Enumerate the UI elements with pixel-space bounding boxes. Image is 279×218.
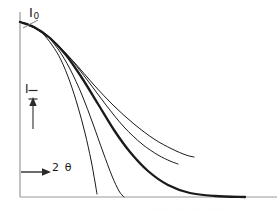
plot-canvas bbox=[0, 0, 279, 218]
i-zero-label: I0 bbox=[29, 5, 39, 21]
two-theta-axis-label: 2 θ bbox=[52, 161, 73, 174]
xrd-intensity-figure: I0 I 2 θ ···· ··· ···· ····· bbox=[0, 0, 279, 218]
two-theta-arrow-group bbox=[21, 168, 51, 175]
i-zero-subscript: 0 bbox=[33, 11, 39, 21]
faint-scan-artifact-text: ···· ··· ···· ····· bbox=[152, 206, 274, 213]
intensity-arrow-head bbox=[29, 97, 36, 106]
curve-shallow bbox=[20, 22, 178, 164]
two-theta-arrow-head bbox=[42, 168, 51, 175]
curve-slowest bbox=[20, 22, 194, 157]
intensity-axis-label: I bbox=[25, 82, 29, 96]
intensity-arrow-group bbox=[29, 91, 38, 130]
